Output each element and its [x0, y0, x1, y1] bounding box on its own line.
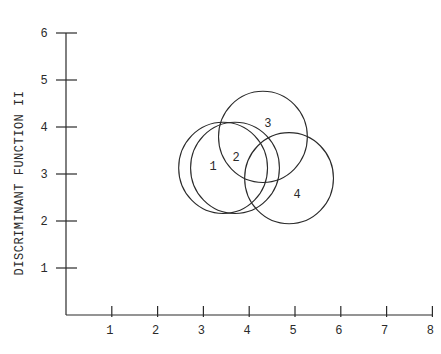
group-label-4: 4: [293, 188, 300, 202]
group-label-3: 3: [264, 117, 271, 131]
group-circles: [179, 91, 334, 224]
y-tick-label: 2: [40, 215, 47, 229]
x-tick-label: 3: [198, 324, 205, 338]
x-tick-label: 6: [335, 324, 342, 338]
discriminant-plot: 12345678123456 1234 DISCRIMINANT FUNCTIO…: [0, 0, 441, 354]
group-circle-1: [179, 122, 268, 213]
y-axis-title: DISCRIMINANT FUNCTION II: [13, 91, 27, 276]
group-label-2: 2: [232, 151, 239, 165]
x-tick-label: 2: [152, 324, 159, 338]
group-circle-2: [191, 122, 280, 213]
x-tick-label: 7: [381, 324, 388, 338]
group-circle-3: [219, 91, 308, 182]
x-tick-label: 1: [106, 324, 113, 338]
y-tick-label: 3: [40, 168, 47, 182]
y-tick-label: 1: [40, 262, 47, 276]
tick-labels: 12345678123456: [40, 27, 434, 338]
group-label-1: 1: [209, 160, 216, 174]
x-tick-label: 5: [289, 324, 296, 338]
group-labels: 1234: [209, 117, 300, 202]
y-tick-label: 6: [40, 27, 47, 41]
x-tick-label: 4: [244, 324, 251, 338]
group-circle-4: [245, 133, 334, 224]
y-tick-label: 5: [40, 74, 47, 88]
x-tick-label: 8: [427, 324, 434, 338]
y-tick-label: 4: [40, 121, 47, 135]
